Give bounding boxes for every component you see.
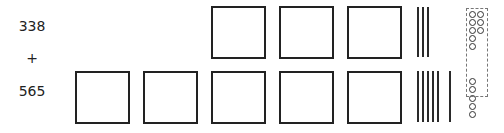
ten-rod <box>432 71 434 122</box>
ten-rod <box>427 7 429 57</box>
addend-1: 338 <box>18 18 46 34</box>
hundred-block <box>347 6 402 59</box>
hundred-block <box>211 71 266 124</box>
regroup-box <box>466 8 488 97</box>
one-cube <box>469 111 476 118</box>
ten-rod <box>422 7 424 57</box>
one-cube <box>469 103 476 110</box>
hundred-block <box>279 71 334 124</box>
ten-rod <box>417 7 419 57</box>
ten-rod <box>449 71 451 122</box>
hundred-block <box>347 71 402 124</box>
hundred-block <box>279 6 334 59</box>
plus-operator: + <box>18 50 46 66</box>
hundred-block <box>143 71 198 124</box>
addend-2: 565 <box>18 83 46 99</box>
ten-rod <box>437 71 439 122</box>
hundred-block <box>75 71 130 124</box>
ten-rod <box>427 71 429 122</box>
ten-rod <box>417 71 419 122</box>
ten-rod <box>422 71 424 122</box>
hundred-block <box>211 6 266 59</box>
